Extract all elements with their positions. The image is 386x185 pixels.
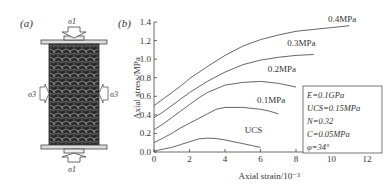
x-tick-label: 6 (258, 154, 263, 164)
parameter-box: E=0.1GPa UCS=0.15MPa N=0.32 C=0.05MPa φ=… (303, 86, 382, 153)
y-tick-label: 1.4 (140, 17, 152, 27)
param-cohesion: C=0.05MPa (307, 129, 350, 139)
param-n: N=0.32 (306, 116, 334, 126)
series-label: 0.2MPa (268, 64, 296, 74)
stress-strain-chart: 0246810120.00.20.40.60.81.01.21.4 UCS0.1… (0, 0, 386, 185)
y-axis-label: Axial stress/MPa (132, 57, 142, 119)
series-line (154, 138, 261, 151)
param-friction-angle: φ=34° (307, 142, 330, 152)
y-tick-label: 0.2 (140, 128, 151, 138)
series-label: 0.3MPa (287, 38, 315, 48)
x-tick-label: 12 (363, 154, 372, 164)
series-label: 0.1MPa (257, 95, 285, 105)
series-label: 0.4MPa (328, 14, 356, 24)
x-tick-label: 10 (327, 154, 337, 164)
x-tick-label: 2 (187, 154, 192, 164)
series-line (154, 81, 296, 129)
x-tick-label: 4 (223, 154, 228, 164)
y-tick-label: 0.0 (140, 147, 152, 157)
x-axis-label: Axial strain/10⁻³ (239, 171, 301, 181)
series-label: UCS (245, 125, 263, 135)
param-modulus: E=0.1GPa (306, 90, 344, 100)
y-tick-label: 1.2 (140, 36, 151, 46)
x-tick-label: 0 (152, 154, 157, 164)
param-ucs: UCS=0.15MPa (307, 103, 360, 113)
x-tick-label: 8 (294, 154, 299, 164)
